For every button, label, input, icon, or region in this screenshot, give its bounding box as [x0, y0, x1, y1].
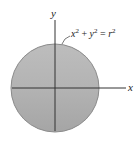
circle-diagram: y x x2 + y2 = r2 [0, 0, 140, 143]
y-axis-label: y [50, 7, 56, 19]
x-axis-label: x [127, 81, 133, 93]
circle-equation: x2 + y2 = r2 [70, 27, 116, 39]
leader-line [62, 36, 70, 44]
